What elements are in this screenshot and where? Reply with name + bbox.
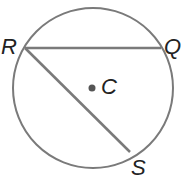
- center-point: [89, 85, 96, 92]
- label-q: Q: [164, 34, 181, 59]
- label-c: C: [101, 74, 117, 99]
- label-r: R: [1, 34, 17, 59]
- circle-diagram: R Q C S: [0, 0, 184, 178]
- label-s: S: [131, 155, 146, 178]
- chord-rs: [25, 48, 130, 152]
